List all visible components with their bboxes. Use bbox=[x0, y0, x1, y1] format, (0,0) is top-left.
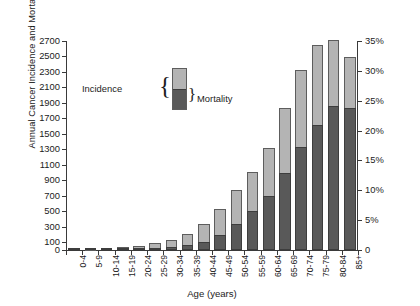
left-axis-line bbox=[66, 41, 67, 250]
x-tick-label: 55-59 bbox=[257, 255, 267, 277]
left-tick-mark bbox=[62, 227, 66, 228]
left-tick-mark bbox=[62, 118, 66, 119]
bar-stack bbox=[263, 148, 275, 250]
right-tick-label: 10% bbox=[365, 185, 384, 194]
left-tick-mark bbox=[62, 56, 66, 57]
bar-segment-mortality bbox=[166, 247, 178, 250]
left-tick-label: 900 bbox=[44, 175, 60, 184]
left-tick-label: 1500 bbox=[39, 129, 60, 138]
bar-stack bbox=[247, 172, 259, 250]
right-tick-mark bbox=[358, 190, 362, 191]
right-axis-line bbox=[357, 41, 358, 250]
x-tick-label: 40-44 bbox=[208, 255, 218, 277]
bar-stack bbox=[166, 240, 178, 250]
bar-stack bbox=[328, 40, 340, 250]
right-tick-label: 0 bbox=[365, 245, 370, 254]
bar-segment-mortality bbox=[182, 245, 194, 250]
left-tick-label: 2100 bbox=[39, 82, 60, 91]
bar-stack bbox=[198, 224, 210, 250]
x-tick-label: 20-24 bbox=[143, 255, 153, 277]
bar-segment-mortality bbox=[279, 173, 291, 250]
right-tick-mark bbox=[358, 101, 362, 102]
bar-stack bbox=[214, 209, 226, 250]
bar-stack bbox=[68, 248, 80, 250]
bar-segment-mortality bbox=[231, 224, 243, 250]
bar-segment-mortality bbox=[328, 106, 340, 250]
bar-stack bbox=[85, 249, 97, 251]
legend-label-mortality: Mortality bbox=[197, 93, 232, 104]
bar-segment-mortality bbox=[133, 248, 145, 250]
left-tick-mark bbox=[62, 149, 66, 150]
chart-figure: Annual Cancer Incidence and Mortality/10… bbox=[0, 0, 420, 306]
left-tick-mark bbox=[62, 87, 66, 88]
bar-stack bbox=[279, 108, 291, 250]
bar-segment-mortality bbox=[214, 235, 226, 250]
x-tick-label: 70-74 bbox=[305, 255, 315, 277]
left-tick-mark bbox=[62, 196, 66, 197]
legend-brace-left: { bbox=[159, 73, 171, 98]
x-tick-label: 25-29 bbox=[159, 255, 169, 277]
legend-swatch bbox=[172, 68, 187, 110]
chart-legend: Incidence { } Mortality bbox=[82, 66, 210, 112]
x-tick-label: 65-69 bbox=[289, 255, 299, 277]
right-tick-mark bbox=[358, 131, 362, 132]
bar-stack bbox=[149, 243, 161, 250]
legend-brace-right: } bbox=[188, 86, 196, 103]
bar-stack bbox=[231, 190, 243, 250]
right-tick-label: 20% bbox=[365, 126, 384, 135]
left-tick-label: 2500 bbox=[39, 51, 60, 60]
right-tick-label: 30% bbox=[365, 66, 384, 75]
bar-segment-mortality bbox=[295, 147, 307, 250]
bar-segment-mortality bbox=[247, 211, 259, 250]
bar-stack bbox=[312, 45, 324, 250]
right-tick-label: 15% bbox=[365, 155, 384, 164]
x-tick-label: 5-9 bbox=[94, 255, 104, 267]
right-tick-label: 25% bbox=[365, 96, 384, 105]
bar-segment-mortality bbox=[198, 242, 210, 251]
right-tick-mark bbox=[358, 41, 362, 42]
bar-segment-mortality bbox=[85, 248, 97, 250]
left-tick-mark bbox=[62, 41, 66, 42]
left-tick-label: 1100 bbox=[40, 160, 60, 169]
left-tick-label: 100 bbox=[44, 237, 60, 246]
bar-segment-mortality bbox=[149, 248, 161, 250]
bar-segment-mortality bbox=[101, 248, 113, 250]
x-tick-label: 60-64 bbox=[273, 255, 283, 277]
left-tick-label: 700 bbox=[44, 191, 60, 200]
left-tick-label: 1700 bbox=[39, 113, 60, 122]
left-tick-mark bbox=[62, 165, 66, 166]
x-tick-label: 45-49 bbox=[224, 255, 234, 277]
right-tick-mark bbox=[358, 71, 362, 72]
right-tick-mark bbox=[358, 160, 362, 161]
x-tick-label: 50-54 bbox=[240, 255, 250, 277]
right-tick-label: 5% bbox=[365, 215, 379, 224]
bar-segment-mortality bbox=[117, 248, 129, 250]
left-tick-mark bbox=[62, 134, 66, 135]
left-tick-label: 500 bbox=[44, 206, 60, 215]
x-tick-label: 85+ bbox=[354, 255, 364, 270]
x-axis-title: Age (years) bbox=[66, 288, 358, 299]
left-tick-label: 300 bbox=[44, 222, 60, 231]
bar-stack bbox=[182, 234, 194, 250]
x-tick-mark bbox=[66, 251, 67, 255]
left-tick-mark bbox=[62, 242, 66, 243]
bar-segment-mortality bbox=[263, 196, 275, 250]
x-tick-label: 30-34 bbox=[175, 255, 185, 277]
left-tick-mark bbox=[62, 211, 66, 212]
legend-label-incidence: Incidence bbox=[82, 83, 122, 94]
bar-segment-mortality bbox=[312, 125, 324, 250]
bar-stack bbox=[101, 248, 113, 250]
bar-stack bbox=[133, 246, 145, 250]
legend-swatch-mortality bbox=[173, 89, 186, 109]
left-tick-label: 1300 bbox=[39, 144, 60, 153]
left-tick-mark bbox=[62, 103, 66, 104]
bar-segment-mortality bbox=[68, 248, 80, 250]
bar-stack bbox=[295, 70, 307, 250]
right-tick-mark bbox=[358, 220, 362, 221]
left-tick-mark bbox=[62, 180, 66, 181]
bar-segment-mortality bbox=[344, 108, 356, 250]
x-tick-label: 15-19 bbox=[127, 255, 137, 277]
bar-stack bbox=[117, 247, 129, 250]
x-tick-label: 10-14 bbox=[111, 255, 121, 277]
x-tick-label: 80-84 bbox=[338, 255, 348, 277]
